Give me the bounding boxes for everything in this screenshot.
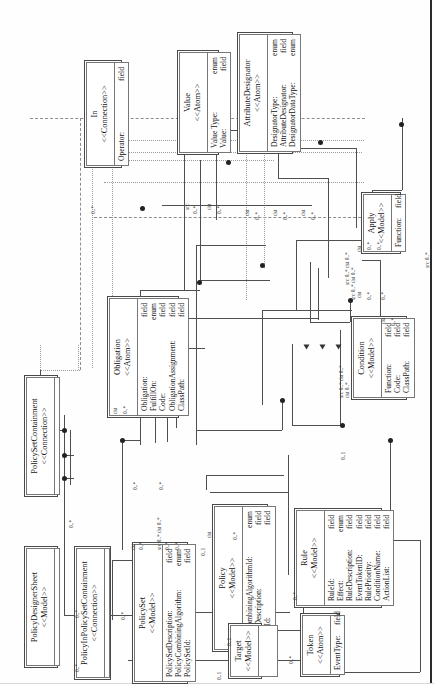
- connector-dashed: [94, 217, 366, 218]
- attribute-type: field: [117, 67, 126, 81]
- multiplicity-label: dst: [112, 408, 118, 414]
- attribute-type: field: [355, 515, 364, 529]
- attribute-name: FulfillOn:: [149, 381, 158, 411]
- uml-class-diagram: In <<Connection>> Operator: field Value …: [0, 0, 434, 684]
- attribute-compartment: [55, 378, 59, 494]
- multiplicity-label: 0..*: [366, 292, 372, 300]
- connector-solid: [310, 322, 350, 323]
- attribute-name: Value:: [219, 129, 228, 148]
- class-stereotype: <<Atom>>: [193, 84, 203, 122]
- multiplicity-label: dst: [244, 210, 250, 216]
- class-box-value[interactable]: Value <<Atom>> Value Type: enum Value: f…: [177, 50, 219, 155]
- multiplicity-label: 0..*: [132, 482, 138, 490]
- connector-solid: [300, 148, 356, 149]
- attribute-type: enum: [288, 39, 297, 56]
- class-box-token[interactable]: Token <<Atom>> EventType: field: [300, 613, 340, 677]
- multiplicity-label: 0..*: [74, 610, 80, 618]
- connector-solid: [402, 118, 403, 190]
- attribute-type: field: [219, 57, 228, 71]
- attribute-compartment: EventType: field: [331, 616, 344, 674]
- attribute-type: enum: [336, 515, 345, 532]
- class-box-obligation[interactable]: Obligation <<Atom>> Obligation: field Fu…: [107, 296, 179, 418]
- multiplicity-label: 0..*: [292, 592, 298, 600]
- attribute-compartment: RuleId: field Effect: enum RuleDescripti…: [325, 511, 393, 605]
- class-stereotype: <<Connection>>: [90, 584, 100, 642]
- class-box-policy-set[interactable]: PolicySet <<Model>> PolicySetDescription…: [132, 542, 188, 684]
- connector-solid: [200, 280, 270, 281]
- connector-solid: [362, 260, 380, 261]
- attribute-type: enum: [270, 39, 279, 56]
- attribute-name: Value Type:: [210, 112, 219, 148]
- attribute-row: DesignatorDataType: enum: [288, 39, 297, 147]
- class-box-target[interactable]: Target <<Model>>: [228, 623, 262, 679]
- attribute-type: field: [183, 549, 192, 563]
- connector-dotted: [104, 182, 364, 183]
- connector-solid: [206, 475, 284, 476]
- attribute-name: ActionList:: [382, 566, 391, 601]
- attribute-name: ConditionName:: [373, 550, 382, 601]
- class-stereotype: <<Model>>: [377, 203, 387, 244]
- attribute-type: field: [165, 549, 174, 563]
- attribute-name: Effect:: [336, 580, 345, 601]
- attribute-name: AttributeDesignator:: [279, 84, 288, 147]
- multiplicity-label: src 0..*: [424, 252, 430, 268]
- class-box-policy-set-containment[interactable]: PolicySetContainment <<Connection>>: [24, 375, 58, 497]
- class-box-condition[interactable]: Condition <<Model>> Function: field Code…: [351, 316, 407, 400]
- arrow-head: [336, 345, 342, 350]
- attribute-type: field: [168, 303, 177, 317]
- class-box-rule[interactable]: Rule <<Model>> RuleId: field Effect: enu…: [294, 508, 382, 608]
- class-name: Policy: [218, 567, 228, 588]
- connector-solid: [262, 310, 352, 311]
- class-stereotype: <<Model>>: [148, 593, 158, 634]
- connector-solid: [262, 310, 263, 405]
- attribute-type: field: [364, 515, 373, 529]
- attribute-type: enum: [149, 303, 158, 320]
- class-name: Obligation: [113, 339, 123, 375]
- attribute-compartment: DesignatorType: enum AttributeDesignator…: [268, 35, 300, 151]
- class-box-in[interactable]: In <<Connection>> Operator: field: [84, 60, 122, 168]
- multiplicity-label: 0..*: [310, 212, 316, 220]
- attribute-row: Operator: field: [117, 67, 126, 161]
- attribute-compartment: [55, 549, 59, 665]
- class-name: PolicyDesignerSheet: [30, 572, 40, 642]
- multiplicity-label: 0..*: [232, 532, 238, 540]
- class-name: PolicyInPolicySetContainment: [80, 561, 90, 665]
- attribute-row: ObligationAssignment: field: [168, 303, 177, 411]
- attribute-name: Code:: [158, 393, 167, 411]
- attribute-name: Function:: [394, 218, 403, 247]
- attribute-type: enum: [210, 57, 219, 74]
- attribute-row: Effect: enum: [336, 515, 345, 601]
- class-stereotype: <<Atom>>: [123, 338, 133, 376]
- class-name: Value: [183, 93, 193, 112]
- multiplicity-label: 0..1: [226, 638, 232, 646]
- multiplicity-label: 0..*: [192, 206, 198, 214]
- attribute-row: PolicySetId: field: [183, 549, 192, 677]
- connector-solid: [318, 268, 319, 320]
- connector-dotted: [40, 345, 41, 370]
- connector-solid: [390, 540, 420, 541]
- connector-solid: [70, 455, 71, 485]
- multiplicity-label: dst: [380, 318, 386, 324]
- attribute-name: EventTokenID:: [355, 554, 364, 601]
- multiplicity-label: 0..*: [122, 406, 128, 414]
- multiplicity-label: 0..*: [158, 482, 164, 490]
- attribute-name: ClassPath:: [402, 361, 411, 393]
- composition-marker: [140, 206, 145, 211]
- class-name: In: [90, 111, 100, 118]
- attribute-type: field: [158, 303, 167, 317]
- class-name: Target: [234, 640, 244, 661]
- class-box-attribute-designator[interactable]: AttributeDesignator <<Atom>> DesignatorT…: [237, 32, 293, 154]
- class-box-policy-designer-sheet[interactable]: PolicyDesignerSheet <<Model>>: [24, 546, 58, 668]
- connector-solid: [288, 455, 289, 575]
- multiplicity-label: 0..*: [138, 542, 144, 550]
- composition-marker: [318, 140, 323, 145]
- composition-marker: [399, 122, 404, 127]
- class-stereotype: <<Model>>: [244, 631, 254, 672]
- attribute-type: enum: [174, 549, 183, 566]
- attribute-type: field: [333, 611, 342, 625]
- attribute-name: DesignatorDataType:: [288, 82, 297, 147]
- attribute-row: Value: field: [219, 57, 228, 148]
- attribute-row: EventTokenID: field: [355, 515, 364, 601]
- attribute-row: ActionList: field: [382, 515, 391, 601]
- multiplicity-label: 0..*: [288, 656, 294, 664]
